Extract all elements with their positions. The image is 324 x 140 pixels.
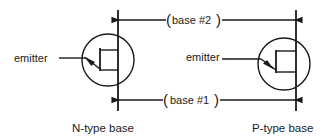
- base1-label: base #1: [170, 94, 209, 106]
- ujt-diagram: emitter N-type base emitter P-type base …: [0, 0, 324, 140]
- n-type-ujt-symbol: emitter N-type base: [14, 10, 134, 134]
- left-emitter-label: emitter: [14, 52, 48, 64]
- base2-open-paren: (: [166, 11, 171, 28]
- base1-close-paren: ): [214, 91, 219, 108]
- base2-connection: ( base #2 ): [119, 11, 295, 28]
- p-type-ujt-symbol: emitter P-type base: [186, 10, 313, 134]
- right-caption: P-type base: [252, 122, 313, 134]
- left-caption: N-type base: [72, 122, 134, 134]
- right-emitter-label: emitter: [186, 51, 220, 63]
- base2-close-paren: ): [216, 11, 221, 28]
- base2-label: base #2: [172, 14, 211, 26]
- base1-open-paren: (: [163, 91, 168, 108]
- base1-connection: ( base #1 ): [119, 91, 295, 108]
